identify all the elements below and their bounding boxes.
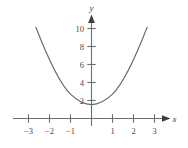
x-tick-label-neg2: −2 [45, 126, 54, 136]
y-tick-label-2: 2 [80, 96, 84, 106]
x-tick-label-1: 1 [110, 126, 114, 136]
y-axis-label: y [89, 3, 94, 13]
x-tick-label-3: 3 [152, 126, 156, 136]
y-tick-label-4: 4 [80, 78, 85, 88]
y-tick-label-8: 8 [80, 42, 84, 52]
x-tick-label-2: 2 [131, 126, 135, 136]
x-axis-label: x [172, 114, 177, 124]
plot-canvas: −3 −2 −1 1 2 3 2 4 6 8 10 x y [0, 0, 188, 148]
y-tick-label-6: 6 [80, 60, 84, 70]
x-axis-arrowhead [162, 115, 171, 121]
parabola-graph-figure: −3 −2 −1 1 2 3 2 4 6 8 10 x y [0, 0, 188, 148]
x-tick-label-neg1: −1 [66, 126, 75, 136]
y-axis-arrowhead [88, 15, 95, 24]
x-tick-label-neg3: −3 [24, 126, 33, 136]
y-tick-label-10: 10 [76, 24, 85, 34]
